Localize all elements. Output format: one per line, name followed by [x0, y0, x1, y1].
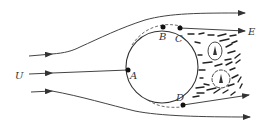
point-b-marker: [161, 25, 166, 30]
vortex-lower: [212, 70, 230, 88]
point-d-marker: [181, 103, 186, 108]
wake-region: [188, 33, 242, 97]
label-u: U: [15, 70, 24, 81]
flow-diagram: U A B C D E: [0, 0, 266, 128]
label-c: C: [175, 33, 183, 44]
vortex-upper: [208, 42, 222, 60]
label-b: B: [158, 31, 166, 42]
boundary-layer-top: [132, 25, 181, 45]
streamline-middle: [29, 70, 128, 74]
label-d: D: [175, 92, 184, 103]
label-e: E: [247, 26, 256, 37]
separation-line-top: [180, 28, 245, 31]
point-c-marker: [178, 26, 183, 31]
streamline-bottom: [31, 91, 250, 117]
label-a: A: [129, 70, 137, 81]
